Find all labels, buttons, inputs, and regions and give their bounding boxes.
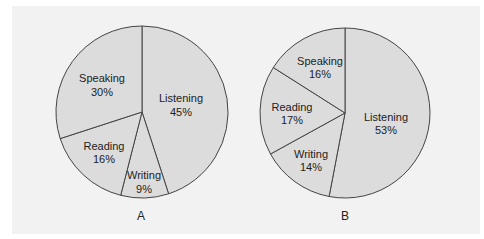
- chart-a-title: A: [137, 209, 145, 223]
- label-b-speaking-name: Speaking: [297, 55, 343, 67]
- label-b-listening-name: Listening: [364, 111, 408, 123]
- label-a-reading-pct: 16%: [93, 153, 115, 165]
- label-a-writing-name: Writing: [127, 169, 161, 181]
- label-b-reading-pct: 17%: [281, 114, 303, 126]
- label-a-listening-pct: 45%: [170, 106, 192, 118]
- label-a-reading-name: Reading: [84, 140, 125, 152]
- chart-b-title: B: [341, 209, 349, 223]
- label-b-writing-name: Writing: [294, 148, 328, 160]
- label-a-listening-name: Listening: [159, 92, 203, 104]
- label-a-speaking-name: Speaking: [79, 72, 125, 84]
- label-a-writing-pct: 9%: [136, 183, 152, 195]
- label-b-speaking-pct: 16%: [309, 68, 331, 80]
- label-b-listening-pct: 53%: [375, 124, 397, 136]
- label-b-writing-pct: 14%: [300, 161, 322, 173]
- label-a-speaking-pct: 30%: [91, 86, 113, 98]
- label-b-reading-name: Reading: [272, 101, 313, 113]
- pie-charts-figure: Listening 45% Writing 9% Reading 16% Spe…: [0, 0, 484, 239]
